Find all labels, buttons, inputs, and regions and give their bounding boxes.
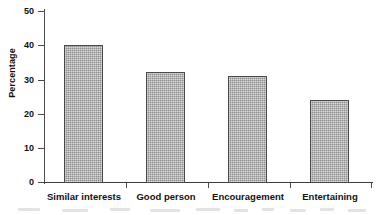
y-tick-label-20: 20 [8,110,34,119]
scan-artifact [348,209,366,212]
y-tick-10 [38,148,44,149]
y-tick-label-50: 50 [8,7,34,16]
x-tick-divider-3 [290,183,291,188]
y-tick-label-30: 30 [8,76,34,85]
x-tick-divider-1 [126,183,127,188]
scan-artifact [196,208,220,211]
x-tick-divider-4 [371,183,372,188]
scan-artifact [290,209,306,212]
bar-similar-interests[interactable] [64,45,103,183]
scan-artifact [18,208,40,211]
category-label-entertaining: Entertaining [290,192,370,202]
y-axis-line [44,9,45,184]
y-tick-40 [38,45,44,46]
y-tick-label-40: 40 [8,41,34,50]
scan-artifact [320,208,334,211]
category-label-encouragement: Encouragement [207,192,289,202]
y-tick-label-10: 10 [8,144,34,153]
y-tick-30 [38,80,44,81]
category-label-similar-interests: Similar interests [44,192,124,202]
y-tick-0 [38,182,44,183]
bar-good-person[interactable] [146,72,185,183]
x-tick-divider-2 [208,183,209,188]
scan-artifact [150,209,180,212]
scan-artifact [110,208,130,211]
bar-entertaining[interactable] [310,100,349,183]
scan-artifacts [0,206,380,215]
scan-artifact [234,209,248,212]
scan-artifact [62,209,88,212]
category-label-good-person: Good person [126,192,206,202]
y-tick-50 [38,11,44,12]
scan-artifact [262,208,274,211]
bar-chart-figure: Percentage 50 40 30 20 10 0 Similar inte… [0,0,380,215]
y-tick-label-0: 0 [8,178,34,187]
bar-encouragement[interactable] [228,76,267,183]
y-tick-20 [38,114,44,115]
